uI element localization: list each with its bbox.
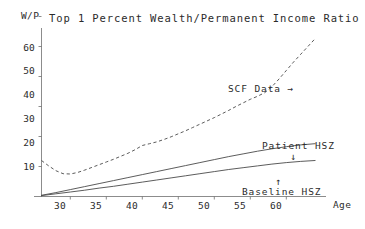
x-tick-label-35: 35 (84, 201, 108, 211)
x-tick-label-50: 50 (192, 201, 216, 211)
y-tick-label-60: 60 (13, 43, 35, 53)
x-axis-title: Age (333, 200, 351, 210)
x-tick-label-55: 55 (228, 201, 252, 211)
x-tick-label-30: 30 (48, 201, 72, 211)
annotation-baseline-hsz: Baseline HSZ (242, 187, 321, 197)
y-axis-ticks (39, 17, 42, 167)
series-line-scf-data (42, 39, 316, 174)
y-tick-label-20: 20 (13, 138, 35, 148)
annotation-patient-hsz: Patient HSZ (262, 141, 335, 151)
annotation-scf-data: SCF Data → (228, 84, 294, 94)
y-axis-title: W/P (21, 11, 39, 21)
x-tick-label-45: 45 (156, 201, 180, 211)
y-tick-label-30: 30 (13, 114, 35, 124)
y-tick-label-40: 40 (13, 90, 35, 100)
arrow-down-icon-patient-hsz: ↓ (290, 152, 296, 162)
y-tick-label-10: 10 (13, 162, 35, 172)
chart-figure: W/P Top 1 Percent Wealth/Permanent Incom… (0, 0, 365, 229)
x-tick-label-60: 60 (264, 201, 288, 211)
chart-title: Top 1 Percent Wealth/Permanent Income Ra… (49, 13, 360, 24)
x-tick-label-40: 40 (120, 201, 144, 211)
y-tick-label-50: 50 (13, 66, 35, 76)
